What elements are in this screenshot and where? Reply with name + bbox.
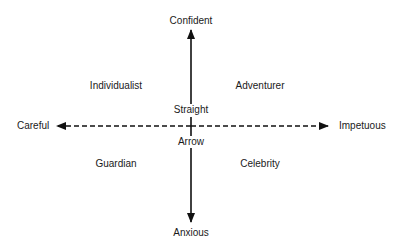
- quadrant-label-individualist: Individualist: [90, 81, 142, 91]
- quadrant-label-celebrity: Celebrity: [240, 159, 279, 169]
- axis-label-confident: Confident: [170, 16, 213, 26]
- center-label-arrow: Arrow: [178, 137, 204, 147]
- axis-label-careful: Careful: [17, 121, 49, 131]
- quadrant-diagram: Confident Anxious Careful Impetuous Indi…: [0, 0, 404, 249]
- quadrant-label-adventurer: Adventurer: [236, 81, 285, 91]
- quadrant-label-guardian: Guardian: [95, 159, 136, 169]
- axis-label-anxious: Anxious: [173, 228, 209, 238]
- center-label-straight: Straight: [174, 105, 208, 115]
- axis-label-impetuous: Impetuous: [339, 121, 386, 131]
